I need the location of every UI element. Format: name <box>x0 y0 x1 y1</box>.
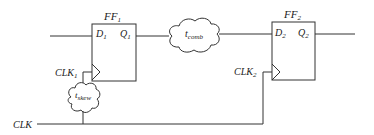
timing-diagram: FF1 D1 Q1 CLK1 FF2 D2 Q2 CLK2 tcomb tske… <box>0 0 374 135</box>
ff2-label: FF2 <box>283 8 301 22</box>
clk2-label: CLK2 <box>234 66 257 79</box>
ff1-label: FF1 <box>103 10 121 24</box>
clk1-wire <box>83 72 92 83</box>
clk1-label: CLK1 <box>55 67 77 80</box>
clk2-wire <box>263 72 272 124</box>
clk-source-label: CLK <box>13 119 33 130</box>
